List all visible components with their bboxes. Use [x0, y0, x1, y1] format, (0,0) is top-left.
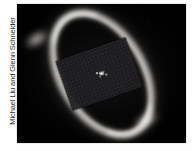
image-credit-text: Michael Liu and Glenn Schneider: [9, 1, 16, 141]
image-credit: Michael Liu and Glenn Schneider: [0, 0, 16, 151]
figure-root: Michael Liu and Glenn Schneider: [0, 0, 192, 151]
astronomy-photo: [17, 4, 186, 143]
central-star-psf: [98, 71, 105, 76]
